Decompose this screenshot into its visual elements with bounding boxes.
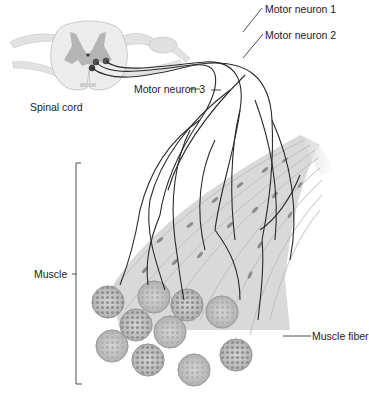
label-motor-neuron-2: Motor neuron 2 bbox=[265, 29, 336, 41]
spinal-cord bbox=[10, 21, 190, 90]
label-muscle: Muscle bbox=[34, 268, 67, 280]
label-spinal-cord: Spinal cord bbox=[30, 101, 83, 113]
label-muscle-fiber: Muscle fiber bbox=[312, 330, 369, 342]
label-motor-neuron-1: Motor neuron 1 bbox=[265, 3, 336, 15]
label-motor-neuron-3: Motor neuron 3 bbox=[134, 83, 205, 95]
